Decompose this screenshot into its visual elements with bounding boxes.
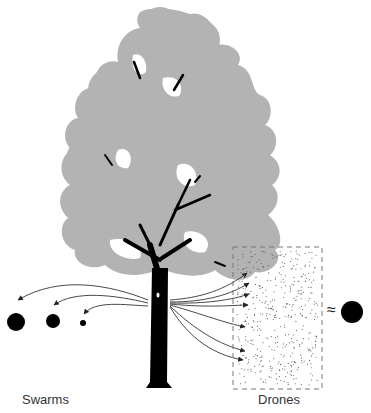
swarm-large bbox=[7, 313, 25, 331]
drones-label: Drones bbox=[258, 393, 300, 406]
trunk-hole bbox=[157, 293, 160, 298]
swarm-small bbox=[80, 320, 86, 326]
drone-arrows bbox=[170, 273, 249, 360]
swarm-arrows bbox=[18, 285, 148, 314]
tree-illustration bbox=[0, 0, 371, 413]
tree-diagram: ≈ Swarms Drones bbox=[0, 0, 371, 413]
equivalent-circle bbox=[341, 301, 363, 323]
swarms-label: Swarms bbox=[22, 393, 69, 406]
tree-trunk bbox=[146, 268, 172, 388]
swarm-medium bbox=[46, 314, 60, 328]
approx-symbol: ≈ bbox=[327, 302, 336, 318]
swarm-circles bbox=[7, 313, 86, 331]
tree-canopy bbox=[60, 7, 280, 280]
